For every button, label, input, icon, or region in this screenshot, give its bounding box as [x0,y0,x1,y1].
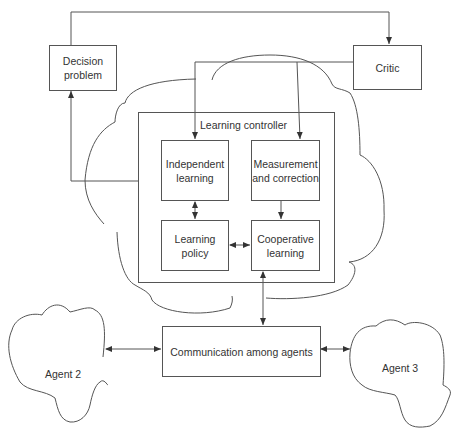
independent-learning-label: Independent learning [166,157,224,185]
communication-box: Communication among agents [162,326,321,377]
agent3-label: Agent 3 [382,362,418,374]
edge-decision-to-critic [71,12,389,45]
learning-policy-label: Learning policy [175,232,216,260]
measurement-correction-label: Measurement and correction [252,157,319,185]
decision-problem-box: Decision problem [49,45,117,91]
decision-problem-label: Decision problem [63,54,103,82]
agent2-label: Agent 2 [45,368,81,380]
independent-learning-box: Independent learning [161,140,229,201]
learning-controller-label: Learning controller [200,119,287,131]
measurement-correction-box: Measurement and correction [251,140,320,201]
critic-box: Critic [353,45,422,90]
learning-policy-box: Learning policy [161,220,229,271]
edge-controller-to-decision [71,91,138,181]
agent2-cloud-outline [9,305,108,422]
cooperative-learning-label: Cooperative learning [257,232,314,260]
critic-label: Critic [376,61,400,75]
cooperative-learning-box: Cooperative learning [251,220,320,271]
communication-label: Communication among agents [170,345,312,359]
